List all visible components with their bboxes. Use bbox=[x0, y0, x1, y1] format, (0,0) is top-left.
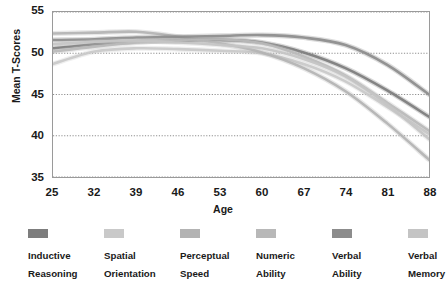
x-axis-tick-label: 32 bbox=[74, 186, 114, 198]
legend-swatch bbox=[332, 229, 352, 238]
legend-item[interactable]: Numeric Ability bbox=[256, 229, 330, 281]
x-axis-tick-label: 60 bbox=[242, 186, 282, 198]
legend-swatch bbox=[180, 229, 200, 238]
x-axis-tick-label: 81 bbox=[368, 186, 408, 198]
y-axis-tick-label: 55 bbox=[0, 5, 44, 16]
legend-swatch bbox=[408, 229, 428, 238]
legend-label: Inductive Reasoning bbox=[28, 250, 78, 279]
legend-swatch bbox=[256, 229, 276, 238]
legend-label: Verbal Memory bbox=[408, 250, 445, 279]
legend-item[interactable]: Inductive Reasoning bbox=[28, 229, 102, 281]
legend-swatch bbox=[28, 229, 48, 238]
x-axis-title: Age bbox=[0, 203, 446, 215]
x-axis-tick-label: 39 bbox=[116, 186, 156, 198]
x-axis-tick-label: 46 bbox=[158, 186, 198, 198]
y-axis-tick-label: 40 bbox=[0, 130, 44, 141]
legend-item[interactable]: Spatial Orientation bbox=[104, 229, 178, 281]
plot-area bbox=[52, 11, 430, 178]
y-axis-tick-label: 50 bbox=[0, 47, 44, 58]
legend-item[interactable]: Verbal Memory bbox=[408, 229, 446, 281]
chart-legend: Inductive ReasoningSpatial OrientationPe… bbox=[28, 229, 438, 283]
x-axis-tick-label: 67 bbox=[284, 186, 324, 198]
line-chart-canvas bbox=[53, 12, 429, 177]
legend-label: Perceptual Speed bbox=[180, 250, 230, 279]
x-axis-tick-label: 88 bbox=[410, 186, 446, 198]
y-axis-tick-label: 35 bbox=[0, 172, 44, 183]
legend-swatch bbox=[104, 229, 124, 238]
chart-figure: Mean T-Scores 5550454035 253239465360677… bbox=[0, 0, 446, 285]
x-axis-tick-label: 53 bbox=[200, 186, 240, 198]
legend-label: Spatial Orientation bbox=[104, 250, 156, 279]
y-axis-title: Mean T-Scores bbox=[10, 6, 22, 126]
x-axis-tick-label: 74 bbox=[326, 186, 366, 198]
x-axis-tick-label: 25 bbox=[32, 186, 72, 198]
legend-label: Numeric Ability bbox=[256, 250, 295, 279]
series-lines bbox=[53, 32, 429, 160]
legend-item[interactable]: Verbal Ability bbox=[332, 229, 406, 281]
legend-label: Verbal Ability bbox=[332, 250, 362, 279]
legend-item[interactable]: Perceptual Speed bbox=[180, 229, 254, 281]
y-axis-tick-label: 45 bbox=[0, 89, 44, 100]
